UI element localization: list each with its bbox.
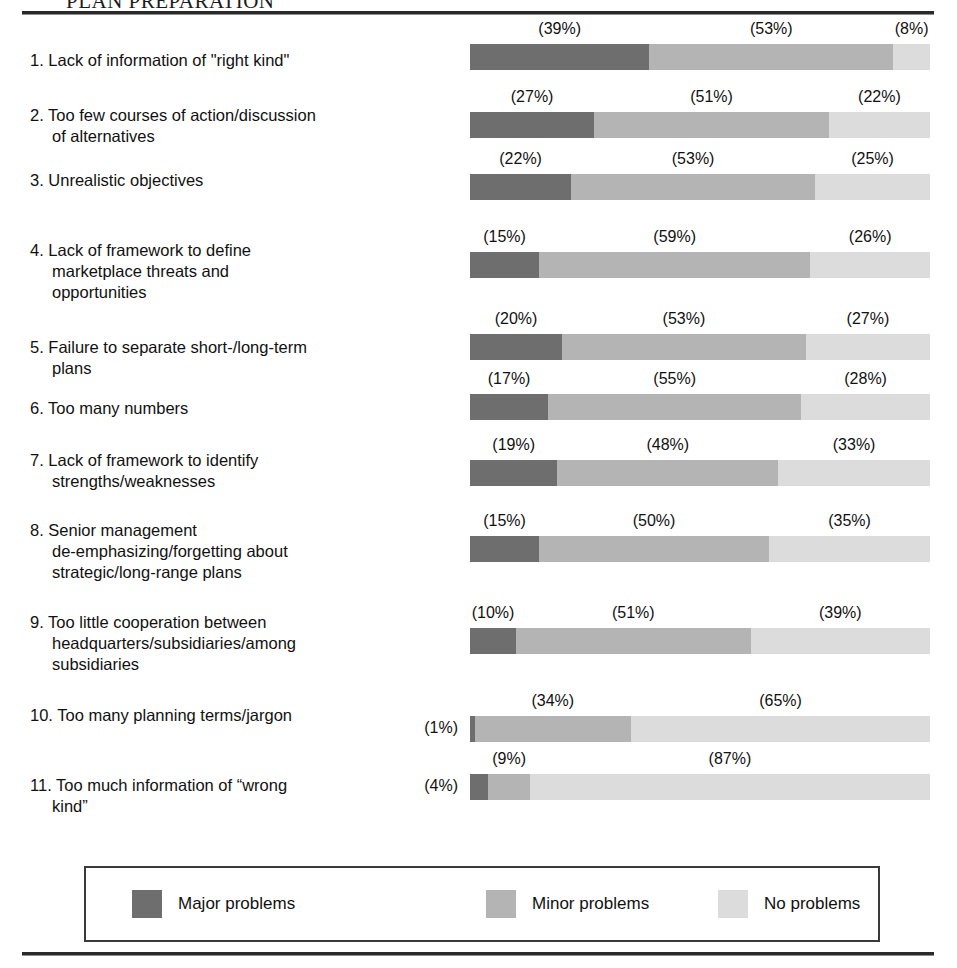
stacked-bar-chart: (39%)(53%)(8%)1. Lack of information of … xyxy=(0,0,957,840)
category-label: 5. Failure to separate short-/long-term … xyxy=(30,337,472,379)
bar-row xyxy=(470,628,930,654)
bar-segment-value: (35%) xyxy=(828,512,871,530)
stacked-bar xyxy=(470,536,930,562)
category-label: 2. Too few courses of action/discussion … xyxy=(30,105,472,147)
bar-value-labels: (15%)(59%)(26%) xyxy=(470,228,930,250)
bar-segment-minor xyxy=(571,174,815,200)
bar-segment-value: (48%) xyxy=(646,436,689,454)
bar-row xyxy=(470,174,930,200)
bar-value-labels: (34%)(65%) xyxy=(470,692,930,714)
bar-row xyxy=(470,774,930,800)
category-label: 4. Lack of framework to define marketpla… xyxy=(30,240,472,303)
legend-item-none: No problems xyxy=(718,890,860,918)
bar-row xyxy=(470,44,930,70)
bar-row xyxy=(470,460,930,486)
bar-row xyxy=(470,536,930,562)
bar-segment-value: (39%) xyxy=(538,20,581,38)
bar-segment-none xyxy=(806,334,930,360)
bar-value-labels: (10%)(51%)(39%) xyxy=(470,604,930,626)
bar-value-labels: (9%)(87%) xyxy=(470,750,930,772)
bar-segment-value: (15%) xyxy=(483,512,526,530)
bar-segment-value: (87%) xyxy=(709,750,752,768)
bar-segment-none xyxy=(631,716,930,742)
bar-segment-value: (34%) xyxy=(531,692,574,710)
bar-segment-none xyxy=(751,628,930,654)
bar-segment-minor xyxy=(562,334,806,360)
bar-segment-value: (28%) xyxy=(844,370,887,388)
category-label: 3. Unrealistic objectives xyxy=(30,170,472,191)
bar-segment-value: (20%) xyxy=(495,310,538,328)
bar-value-labels: (15%)(50%)(35%) xyxy=(470,512,930,534)
bar-value-labels: (17%)(55%)(28%) xyxy=(470,370,930,392)
bar-segment-major xyxy=(470,394,548,420)
category-label: 9. Too little cooperation between headqu… xyxy=(30,612,472,675)
category-label: 8. Senior management de-emphasizing/forg… xyxy=(30,520,472,583)
bar-segment-value: (22%) xyxy=(499,150,542,168)
stacked-bar xyxy=(470,112,930,138)
stacked-bar xyxy=(470,394,930,420)
footer-divider xyxy=(22,952,934,955)
bar-segment-value: (10%) xyxy=(472,604,515,622)
bar-row xyxy=(470,716,930,742)
bar-segment-minor xyxy=(594,112,829,138)
bar-segment-value: (39%) xyxy=(819,604,862,622)
bar-segment-value: (51%) xyxy=(612,604,655,622)
bar-segment-major xyxy=(470,460,557,486)
legend-label: No problems xyxy=(764,894,860,914)
stacked-bar xyxy=(470,174,930,200)
bar-segment-value: (59%) xyxy=(653,228,696,246)
stacked-bar xyxy=(470,44,930,70)
bar-segment-value: (53%) xyxy=(750,20,793,38)
bar-row xyxy=(470,252,930,278)
bar-segment-value: (27%) xyxy=(847,310,890,328)
bar-segment-none xyxy=(769,536,930,562)
legend-item-major: Major problems xyxy=(132,890,295,918)
bar-segment-value: (25%) xyxy=(851,150,894,168)
legend-swatch-major xyxy=(132,890,162,918)
bar-segment-value: (15%) xyxy=(483,228,526,246)
bar-segment-value: (9%) xyxy=(492,750,526,768)
bar-segment-value: (53%) xyxy=(672,150,715,168)
bar-segment-major xyxy=(470,44,649,70)
bar-segment-none xyxy=(778,460,930,486)
bar-segment-minor xyxy=(557,460,778,486)
bar-segment-minor xyxy=(488,774,529,800)
bar-segment-value: (26%) xyxy=(849,228,892,246)
bar-segment-value: (22%) xyxy=(858,88,901,106)
category-label: 11. Too much information of “wrong kind” xyxy=(30,775,472,817)
bar-segment-major xyxy=(470,536,539,562)
bar-segment-minor xyxy=(539,252,810,278)
stacked-bar xyxy=(470,774,930,800)
category-label: 10. Too many planning terms/jargon xyxy=(30,705,472,726)
bar-segment-value: (17%) xyxy=(488,370,531,388)
stacked-bar xyxy=(470,252,930,278)
category-label: 1. Lack of information of "right kind" xyxy=(30,50,472,71)
bar-segment-none xyxy=(810,252,930,278)
bar-segment-major xyxy=(470,334,562,360)
bar-segment-value: (50%) xyxy=(633,512,676,530)
bar-segment-minor xyxy=(548,394,801,420)
bar-segment-none xyxy=(893,44,930,70)
chart-legend: Major problemsMinor problemsNo problems xyxy=(84,866,880,942)
legend-item-minor: Minor problems xyxy=(486,890,649,918)
bar-segment-value: (55%) xyxy=(653,370,696,388)
bar-segment-major xyxy=(470,252,539,278)
stacked-bar xyxy=(470,716,930,742)
bar-segment-major xyxy=(470,112,594,138)
bar-row xyxy=(470,112,930,138)
bar-segment-value: (51%) xyxy=(690,88,733,106)
legend-swatch-none xyxy=(718,890,748,918)
bar-segment-value: (65%) xyxy=(759,692,802,710)
bar-value-labels: (22%)(53%)(25%) xyxy=(470,150,930,172)
bar-value-labels: (19%)(48%)(33%) xyxy=(470,436,930,458)
bar-segment-minor xyxy=(516,628,751,654)
bar-segment-value: (33%) xyxy=(833,436,876,454)
bar-segment-minor xyxy=(475,716,631,742)
stacked-bar xyxy=(470,334,930,360)
bar-row xyxy=(470,394,930,420)
bar-segment-minor xyxy=(539,536,769,562)
bar-segment-value: (19%) xyxy=(492,436,535,454)
bar-segment-none xyxy=(815,174,930,200)
bar-segment-minor xyxy=(649,44,893,70)
legend-label: Minor problems xyxy=(532,894,649,914)
